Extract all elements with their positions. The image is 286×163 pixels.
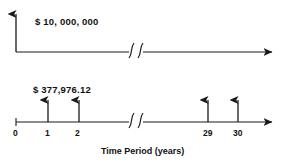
x-axis-title: Time Period (years) — [101, 147, 184, 156]
top-timeline-amount-label: $ 10, 000, 000 — [35, 17, 99, 27]
tick-label-0: 0 — [13, 129, 18, 138]
bottom-axis-break-icon — [129, 113, 143, 128]
tick-label-1: 1 — [45, 129, 50, 138]
tick-label-29: 29 — [203, 129, 212, 138]
tick-label-30: 30 — [233, 129, 242, 138]
bottom-timeline-group — [16, 100, 272, 128]
bottom-timeline-amount-label: $ 377,976.12 — [33, 85, 91, 95]
top-axis-break-icon — [129, 43, 143, 58]
cash-flow-diagram: $ 10, 000, 000 $ 377,976.12 0 1 2 29 30 … — [0, 0, 286, 163]
tick-label-2: 2 — [75, 129, 80, 138]
